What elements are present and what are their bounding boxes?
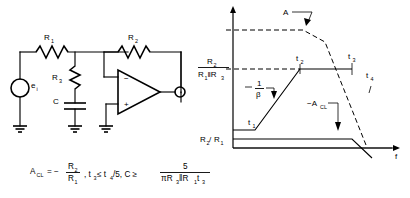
label-r3: R 3 [52, 73, 62, 84]
ground-symbol-source [13, 126, 27, 132]
breakpoint-t2-sub: 2 [301, 59, 304, 65]
annotation-acl-arrowhead [335, 122, 341, 131]
annotation-acl-leader [328, 103, 338, 124]
ylabel1-den-sub2: 3 [221, 75, 224, 81]
ylabel2-den: R [214, 135, 220, 144]
breakpoint-t3-label: t [348, 52, 351, 61]
annotation-beta-arrowhead [271, 91, 277, 99]
label-ei-sub: i [37, 86, 38, 92]
circuit-schematic: − + R 1 R 2 R 3 C e i [11, 33, 185, 132]
eq-cond1: , t [84, 170, 92, 179]
ylabel2-den-sub: 1 [221, 140, 224, 146]
opamp-noninverting-label: + [124, 100, 129, 109]
breakpoint-t1-sub: 1 [253, 123, 256, 129]
opamp-inverting-label: − [124, 74, 129, 83]
label-r2-sub: 2 [135, 38, 138, 44]
eq-frac2-den-sub3: 3 [202, 179, 205, 185]
eq-acl-text: A [30, 167, 36, 176]
ylabel1-num: R [207, 57, 213, 66]
label-source-ei: e i [31, 81, 38, 92]
ylabel2-num: R [200, 135, 206, 144]
ylabel-r2-over-r1: R 2 / R 1 [200, 135, 224, 146]
resistor-r3 [70, 66, 80, 89]
ylabel1-den-mid: ‖R [208, 70, 217, 79]
annotation-minus-acl: −A CL [307, 99, 341, 131]
design-equation: A CL = − R 2 R 1 , t 3 ≤ t 4 /5, C ≥ 5 π… [30, 162, 210, 185]
eq-frac2-den-t: t [197, 174, 200, 183]
annotation-beta-den: β [256, 90, 261, 99]
label-ei-text: e [31, 81, 36, 90]
breakpoint-t4-sub: 4 [371, 76, 374, 82]
label-r1-sub: 1 [51, 38, 54, 44]
eq-frac-num-sub: 2 [75, 167, 78, 173]
breakpoint-t4-label: t [366, 71, 369, 80]
breakpoint-t3: t 3 [348, 52, 356, 63]
resistor-r1 [36, 46, 68, 58]
annotation-A-arrowhead [304, 18, 311, 26]
label-r1-text: R [44, 33, 50, 42]
curve-open-loop-gain-A [226, 30, 366, 145]
ylabel1-num-sub: 2 [214, 62, 217, 68]
eq-frac2-num: 5 [183, 162, 188, 171]
annotation-one-over-beta: 1 β [245, 79, 277, 99]
curve-one-over-beta [233, 69, 352, 130]
eq-cond1-rel: ≤ t [97, 170, 107, 179]
figure-root: − + R 1 R 2 R 3 C e i [0, 0, 410, 198]
breakpoint-t2-label: t [296, 54, 299, 63]
ylabel-r2-over-r1r3: R 2 R 1 ‖R 3 [198, 57, 229, 81]
eq-equals-minus: = − [47, 167, 59, 176]
output-terminal [175, 87, 185, 97]
annotation-A-label: A [283, 8, 289, 17]
label-cap-c: C [53, 97, 59, 106]
breakpoint-t4: t 4 [366, 71, 374, 82]
breakpoint-t3-sub: 3 [353, 57, 356, 63]
plot-x-axis-label: f [395, 152, 398, 161]
eq-cond1-tail: /5, C ≥ [113, 170, 138, 179]
label-r3-text: R [52, 73, 58, 82]
ground-symbol-cap [68, 126, 82, 132]
plot-y-axis-arrow [230, 6, 236, 13]
plot-x-axis-arrow [393, 145, 400, 151]
ylabel2-slash: / [209, 135, 212, 144]
eq-frac2-den: πR [161, 174, 173, 183]
ground-symbol-opamp [99, 126, 113, 132]
figure-canvas: − + R 1 R 2 R 3 C e i [0, 0, 410, 198]
ylabel1-den: R [198, 70, 204, 79]
annotation-acl-sub: CL [320, 104, 327, 110]
bode-plot: f A R 2 R 1 ‖R 3 R 2 / [198, 6, 400, 161]
eq-acl-sub: CL [37, 172, 44, 178]
label-r2: R 2 [128, 33, 138, 44]
eq-frac-den-sub: 1 [75, 179, 78, 185]
voltage-source-ei [11, 79, 29, 97]
breakpoint-t4-leader [369, 86, 371, 93]
breakpoint-t1-label: t [248, 118, 251, 127]
eq-frac-den: R [68, 174, 74, 183]
label-r1: R 1 [44, 33, 54, 44]
eq-frac-num: R [68, 162, 74, 171]
label-r3-sub: 3 [59, 78, 62, 84]
annotation-beta-num: 1 [257, 79, 262, 88]
annotation-acl-label: −A [307, 99, 318, 108]
breakpoint-t2: t 2 [296, 54, 304, 65]
eq-frac2-den-mid: ‖R [179, 174, 188, 183]
label-r2-text: R [128, 33, 134, 42]
breakpoint-t1: t 1 [248, 118, 256, 129]
